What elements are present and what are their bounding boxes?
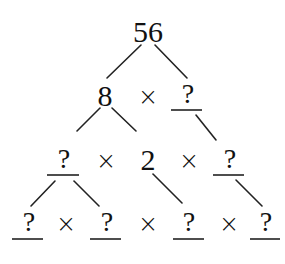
unknown-factor: ? bbox=[101, 208, 113, 236]
times-symbol: × bbox=[179, 149, 199, 173]
unknown-factor: ? bbox=[260, 208, 272, 236]
times-symbol: × bbox=[219, 212, 239, 236]
times-symbol: × bbox=[96, 149, 116, 173]
branch-line bbox=[74, 181, 99, 206]
unknown-factor: ? bbox=[23, 208, 35, 236]
unknown-factor: ? bbox=[224, 145, 236, 173]
unknown-factor: ? bbox=[58, 145, 70, 173]
times-symbol: × bbox=[138, 85, 158, 109]
branch-line bbox=[112, 108, 136, 131]
factor-tree-diagram: 56 8 × ? ? × 2 × ? ? × ? × ? × ? bbox=[0, 0, 285, 264]
known-factor-2: 2 bbox=[141, 145, 156, 175]
root-value: 56 bbox=[133, 17, 163, 47]
unknown-factor: ? bbox=[183, 208, 195, 236]
branch-line bbox=[107, 45, 141, 78]
times-symbol: × bbox=[56, 212, 76, 236]
branch-line bbox=[236, 180, 262, 206]
known-factor-8: 8 bbox=[98, 81, 113, 111]
branch-line bbox=[155, 45, 187, 78]
branch-line bbox=[153, 174, 182, 203]
branch-line bbox=[31, 181, 55, 206]
unknown-factor: ? bbox=[182, 80, 194, 108]
branch-line bbox=[196, 115, 216, 140]
times-symbol: × bbox=[138, 212, 158, 236]
